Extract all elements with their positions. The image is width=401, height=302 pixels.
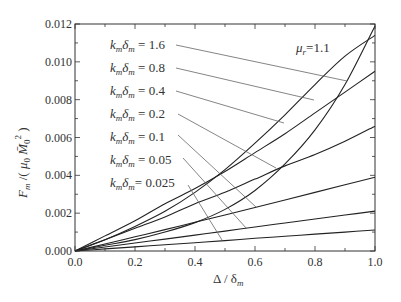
x-tick-label: 0.6 [248,255,263,269]
series-label-1.6: kmδm = 1.6 [110,37,165,54]
y-tick-label: 0.010 [45,55,72,69]
leader-line [176,68,314,100]
x-tick-label: 0.2 [128,255,143,269]
series-label-0.8: kmδm = 0.8 [110,60,165,77]
y-tick-label: 0.000 [45,244,72,258]
y-tick-label: 0.008 [45,93,72,107]
x-tick-label: 0.4 [188,255,203,269]
y-tick-label: 0.006 [45,131,72,145]
y-axis-label: Fm /( μ0 M̄02 ) [13,127,32,199]
series-label-0.025: kmδm= 0.025 [110,175,175,192]
y-tick-label: 0.012 [45,17,72,31]
chart: 0.00.20.40.60.81.0 0.0000.0020.0040.0060… [0,0,401,302]
leader-lines [176,45,347,240]
y-tick-label: 0.002 [45,206,72,220]
series-label-0.2: kmδm = 0.2 [110,106,165,123]
x-tick-label: 1.0 [368,255,383,269]
leader-line [178,114,276,168]
series-curve [75,211,375,251]
x-axis-label: Δ / δm [213,271,244,288]
series-label-0.05: kmδm = 0.05 [110,152,171,169]
mu-r-annotation: μr=1.1 [295,40,330,57]
leader-line [188,185,222,240]
x-tick-label: 0.8 [308,255,323,269]
series-label-0.4: kmδm = 0.4 [110,83,165,100]
series-label-0.1: kmδm = 0.1 [110,129,165,146]
leader-line [176,91,284,123]
series-labels: kmδm = 1.6 kmδm = 0.8 kmδm = 0.4 kmδm = … [110,37,175,192]
y-tick-label: 0.004 [45,168,72,182]
